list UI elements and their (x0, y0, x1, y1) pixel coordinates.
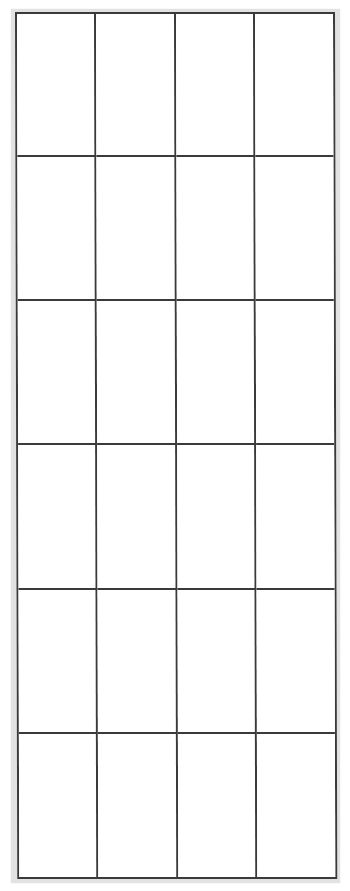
grid-cell (176, 14, 255, 157)
grid-cell (19, 590, 98, 734)
grid-cell (255, 14, 333, 157)
grid-cell (255, 157, 333, 301)
grid-cell (176, 157, 255, 301)
grid-cell (177, 445, 256, 590)
grid-cell (98, 734, 178, 877)
grid-cell (257, 734, 335, 877)
grid-cell (17, 157, 96, 301)
grid-cell (177, 301, 256, 445)
grid-cell (257, 590, 335, 734)
grid-cell (96, 157, 176, 301)
grid-cell (96, 14, 176, 157)
grid-cell (18, 445, 97, 590)
grid-cell (178, 590, 257, 734)
grid-cell (178, 734, 257, 877)
grid-cell (98, 590, 178, 734)
grid-sheet (15, 12, 337, 879)
grid (17, 14, 335, 877)
grid-cell (256, 445, 334, 590)
grid-cell (97, 301, 177, 445)
grid-cell (19, 734, 98, 877)
page (0, 0, 350, 891)
grid-cell (97, 445, 177, 590)
grid-cell (256, 301, 334, 445)
grid-cell (18, 301, 97, 445)
grid-cell (17, 14, 96, 157)
